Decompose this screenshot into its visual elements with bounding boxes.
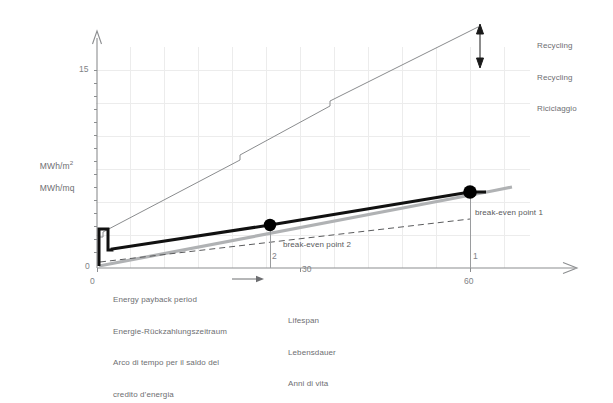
- payback-line-1: Energy payback period: [113, 295, 227, 306]
- series-low-energy-building: [99, 187, 512, 266]
- recycling-range-arrow: [477, 24, 484, 68]
- break-even-point-2-marker: [264, 219, 276, 231]
- recycling-annotation: Recycling Recycling Riciclaggio: [537, 20, 577, 136]
- y-axis-title-line1: MWh/m2: [40, 161, 73, 171]
- range-arrow-head-down: [477, 58, 484, 68]
- x-tick-label-60: 60: [464, 276, 474, 287]
- y-axis-title: MWh/m2 MWh/mq: [30, 150, 74, 205]
- x-axis-ticks: [97, 268, 470, 272]
- break-even-point-1-marker: [463, 185, 477, 199]
- energy-payback-arrow: [232, 276, 264, 282]
- lifespan-line-3: Anni di vita: [288, 379, 336, 390]
- payback-arrow-head: [256, 276, 264, 282]
- x-marker-label-2: 2: [272, 251, 277, 262]
- recycling-line-1: Recycling: [537, 41, 577, 52]
- break-even-point-2-label: break-even point 2: [283, 240, 351, 251]
- payback-line-3: Arco di tempo per il saldo del: [113, 358, 227, 369]
- y-tick-label-15: 15: [79, 64, 89, 75]
- lifespan-line-1: Lifespan: [288, 316, 336, 327]
- lifespan-annotation: Lifespan Lebensdauer Anni di vita: [288, 295, 336, 403]
- payback-line-4: credito d’energia: [113, 390, 227, 401]
- x-tick-label-0: 0: [90, 276, 95, 287]
- recycling-line-2: Recycling: [537, 73, 577, 84]
- payback-line-2: Energie-Rückzahlungszeitraum: [113, 327, 227, 338]
- break-even-point-1-label: break-even point 1: [475, 208, 543, 219]
- energy-payback-annotation: Energy payback period Energie-Rückzahlun…: [113, 274, 227, 403]
- x-tick-label-30: 30: [302, 264, 312, 275]
- lifespan-line-2: Lebensdauer: [288, 348, 336, 359]
- y-tick-label-0: 0: [85, 261, 90, 272]
- y-axis-title-superscript: 2: [70, 159, 74, 166]
- recycling-line-3: Riciclaggio: [537, 104, 577, 115]
- gray-thick-line: [99, 187, 512, 266]
- grid-lines: [96, 47, 530, 268]
- y-axis-title-line2: MWh/mq: [40, 183, 75, 193]
- x-marker-label-1: 1: [473, 251, 478, 262]
- range-arrow-head-up: [477, 24, 484, 34]
